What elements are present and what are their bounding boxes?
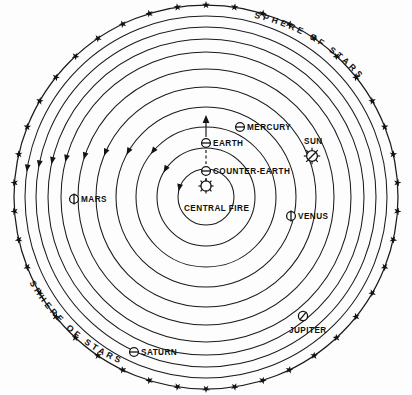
saturn-label: SATURN	[141, 348, 177, 357]
fixed-star	[119, 366, 126, 374]
orbit-direction-arrowhead	[25, 164, 31, 172]
venus-label: VENUS	[298, 212, 329, 221]
fixed-star	[368, 97, 375, 105]
body-earth[interactable]: EARTH	[202, 139, 244, 148]
fixed-star	[368, 289, 375, 297]
body-mars[interactable]: MARS	[70, 194, 107, 205]
mercury-icon	[236, 123, 245, 132]
fixed-star	[381, 264, 389, 271]
earth-icon	[202, 139, 211, 148]
earth-direction-arrowhead	[203, 115, 210, 123]
fixed-star	[24, 264, 32, 271]
sun-label: SUN	[304, 137, 323, 146]
body-sun[interactable]: SUN	[304, 137, 323, 164]
fixed-star	[36, 97, 43, 105]
saturn-icon	[130, 348, 139, 357]
orbit-direction-arrowhead	[104, 148, 109, 156]
jupiter-icon	[298, 311, 307, 320]
body-mercury[interactable]: MERCURY	[236, 123, 292, 132]
body-venus[interactable]: VENUS	[287, 211, 329, 222]
fixed-star	[119, 20, 126, 28]
mars-icon	[70, 194, 79, 205]
orbit-direction-arrowhead	[37, 160, 43, 168]
jupiter-label: JUPITER	[289, 326, 327, 335]
central-fire-label: CENTRAL FIRE	[184, 204, 249, 213]
counter-earth-label: COUNTER-EARTH	[213, 167, 290, 176]
orbit-direction-arrowhead	[127, 147, 133, 155]
venus-icon	[287, 211, 296, 222]
sun-icon	[304, 148, 320, 164]
mars-label: MARS	[81, 195, 107, 204]
fixed-star	[286, 366, 293, 374]
orbit-outer	[25, 16, 387, 378]
sphere-of-stars-upper: SPHERE OF STARS	[254, 10, 367, 82]
cosmology-diagram: CENTRAL FIRE COUNTER-EARTH EARTH MERCU	[0, 0, 412, 395]
body-central-fire[interactable]: CENTRAL FIRE	[184, 178, 249, 213]
earth-label: EARTH	[213, 139, 243, 148]
mercury-label: MERCURY	[247, 123, 291, 132]
fixed-star	[24, 123, 32, 130]
orbit-counter-earth	[178, 169, 234, 225]
cosmology-svg: CENTRAL FIRE COUNTER-EARTH EARTH MERCU	[0, 0, 412, 395]
fixed-star	[381, 123, 389, 130]
orbit-direction-arrowhead	[177, 184, 183, 192]
orbit-direction-arrowhead	[50, 157, 56, 165]
orbit-direction-arrowhead	[83, 152, 89, 160]
orbit-group	[25, 16, 387, 378]
body-saturn[interactable]: SATURN	[130, 348, 178, 357]
counter-earth-icon	[202, 167, 211, 176]
body-counter-earth[interactable]: COUNTER-EARTH	[202, 167, 291, 176]
central-fire-icon	[198, 178, 213, 193]
body-jupiter[interactable]: JUPITER	[289, 311, 327, 335]
